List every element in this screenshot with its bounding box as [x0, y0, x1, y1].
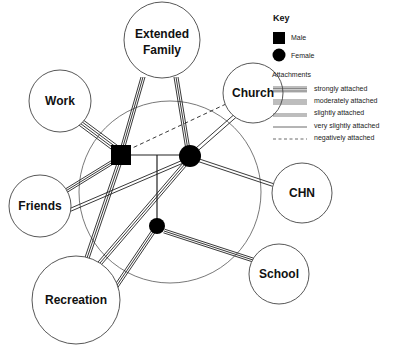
key-legend: Key Male Female Attachments strongly att…: [272, 13, 379, 142]
key-title: Key: [273, 13, 290, 23]
child-female-symbol: [149, 218, 165, 234]
node-work: Work: [29, 70, 91, 132]
node-school-label: School: [259, 267, 299, 281]
node-chn-label: CHN: [289, 186, 315, 200]
node-extended-family: Extended Family: [124, 2, 200, 78]
node-church-label: Church: [232, 86, 274, 100]
key-slight-label: slightly attached: [314, 109, 364, 117]
key-very-slight-label: very slightly attached: [314, 122, 379, 130]
key-male-label: Male: [291, 34, 306, 41]
key-male-icon: [273, 32, 285, 44]
connection-church-female: [193, 115, 236, 153]
key-slight-line: [273, 114, 307, 116]
node-school: School: [249, 244, 309, 304]
node-recreation: Recreation: [32, 256, 120, 344]
node-extended-family-label-1: Extended: [135, 27, 189, 41]
connection-church-male: [128, 104, 226, 150]
key-female-icon: [273, 49, 286, 62]
node-friends-label: Friends: [18, 199, 62, 213]
node-chn: CHN: [272, 163, 332, 223]
node-work-label: Work: [45, 94, 75, 108]
key-attachments-title: Attachments: [272, 71, 311, 78]
node-recreation-label: Recreation: [45, 293, 107, 307]
key-female-label: Female: [291, 52, 314, 59]
node-friends: Friends: [9, 175, 71, 237]
node-extended-family-label-2: Family: [143, 43, 181, 57]
key-strong-label: strongly attached: [314, 85, 367, 93]
connection-extfamily-female: [174, 77, 190, 150]
key-negative-label: negatively attached: [314, 134, 374, 142]
connection-school-child: [163, 229, 253, 262]
female-symbol: [179, 145, 201, 167]
connection-chn-female: [198, 159, 274, 187]
key-moderate-label: moderately attached: [314, 97, 378, 105]
ecomap-diagram: Extended Family Work Church Friends CHN …: [0, 0, 395, 349]
male-symbol: [111, 145, 131, 165]
